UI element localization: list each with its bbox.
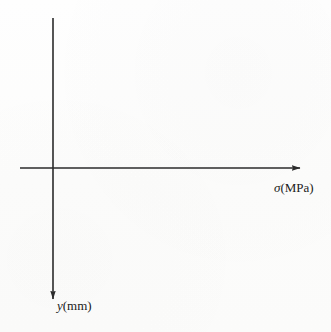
sigma-unit: (MPa): [280, 180, 313, 195]
horizontal-axis-label: σ(MPa): [274, 181, 314, 194]
figure-canvas: σ(MPa) y(mm): [0, 0, 331, 332]
axes-drawing: [0, 0, 331, 332]
y-unit: (mm): [63, 298, 92, 313]
vertical-axis-label: y(mm): [57, 299, 92, 312]
